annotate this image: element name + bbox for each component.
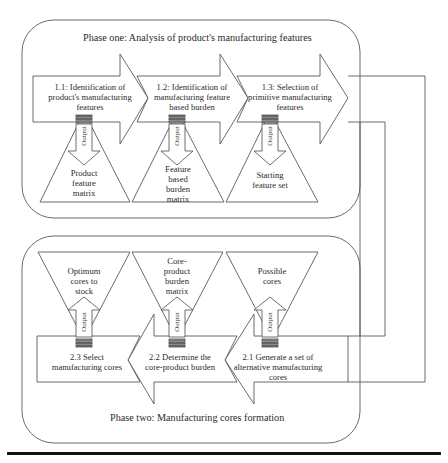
- step-label-line: cores: [228, 372, 328, 382]
- output-label-1-3: Starting feature set: [240, 170, 300, 190]
- step-label-1-2: 1.2: Identification of manufacturing fea…: [147, 82, 237, 112]
- output-arrow-label: Output: [173, 124, 181, 148]
- output-arrow-label: Output: [173, 310, 181, 334]
- step-label-line: core-product burden: [135, 362, 225, 372]
- output-label-line: cores: [242, 276, 302, 286]
- step-label-2-2: 2.2 Determine the core-product burden: [135, 352, 225, 372]
- output-label-1-1: Product feature matrix: [54, 168, 114, 198]
- process-diagram: [0, 0, 448, 463]
- step-label-line: 2.3 Select: [42, 352, 132, 362]
- output-label-2-2: Core- product burden matrix: [147, 256, 207, 296]
- step-label-line: alternative manufacturing: [228, 362, 328, 372]
- step-label-line: manufacturing feature: [147, 92, 237, 102]
- step-label-line: manufacturing cores: [42, 362, 132, 372]
- step-label-line: 1.1: Identification of: [40, 82, 140, 92]
- step-label-line: product's manufacturing: [40, 92, 140, 102]
- phase-two-title: Phase two: Manufacturing cores formation: [110, 412, 284, 423]
- output-label-line: Possible: [242, 266, 302, 276]
- output-arrow-label: Output: [80, 310, 88, 334]
- phase-one-title: Phase one: Analysis of product's manufac…: [83, 32, 312, 43]
- step-label-line: 1.3: Selection of: [245, 82, 335, 92]
- output-label-line: matrix: [54, 188, 114, 198]
- output-arrow-label: Output: [266, 124, 274, 148]
- output-label-line: burden: [148, 184, 208, 194]
- bottom-rule: [7, 452, 441, 455]
- output-label-line: burden: [147, 276, 207, 286]
- step-label-2-3: 2.3 Select manufacturing cores: [42, 352, 132, 372]
- output-label-line: Core-: [147, 256, 207, 266]
- output-label-line: Product: [54, 168, 114, 178]
- output-label-line: matrix: [147, 286, 207, 296]
- output-label-2-3: Optimum cores to stock: [54, 266, 114, 296]
- output-label-line: Feature: [148, 164, 208, 174]
- step-label-line: 2.2 Determine the: [135, 352, 225, 362]
- output-label-1-2: Feature based burden matrix: [148, 164, 208, 204]
- output-label-line: matrix: [148, 194, 208, 204]
- output-label-2-1: Possible cores: [242, 266, 302, 286]
- output-label-line: product: [147, 266, 207, 276]
- output-label-line: feature set: [240, 180, 300, 190]
- step-label-2-1: 2.1 Generate a set of alternative manufa…: [228, 352, 328, 382]
- output-label-line: Optimum: [54, 266, 114, 276]
- output-label-line: feature: [54, 178, 114, 188]
- output-label-line: based: [148, 174, 208, 184]
- output-label-line: Starting: [240, 170, 300, 180]
- step-label-line: 2.1 Generate a set of: [228, 352, 328, 362]
- step-label-1-3: 1.3: Selection of primitive manufacturin…: [245, 82, 335, 112]
- step-label-line: features: [245, 102, 335, 112]
- output-label-line: stock: [54, 286, 114, 296]
- step-label-line: 1.2: Identification of: [147, 82, 237, 92]
- step-label-1-1: 1.1: Identification of product's manufac…: [40, 82, 140, 112]
- step-label-line: based burden: [147, 102, 237, 112]
- output-arrow-label: Output: [266, 310, 274, 334]
- output-label-line: cores to: [54, 276, 114, 286]
- step-label-line: primitive manufacturing: [245, 92, 335, 102]
- output-arrow-label: Output: [80, 124, 88, 148]
- step-label-line: features: [40, 102, 140, 112]
